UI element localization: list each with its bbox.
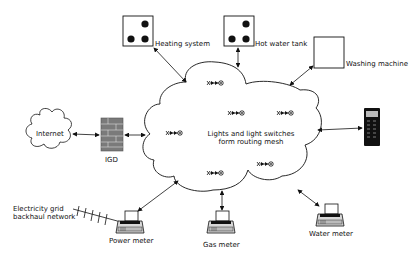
hot-water-tank-icon <box>224 16 254 46</box>
label-heating-system: Heating system <box>155 40 210 48</box>
label-grid-line1: Electricity grid <box>13 205 75 213</box>
label-internet: Internet <box>36 130 64 138</box>
washing-machine-icon <box>314 37 344 68</box>
label-water-meter: Water meter <box>309 230 353 238</box>
internet-cloud-icon <box>26 108 71 148</box>
link-internet-igd <box>73 134 99 135</box>
link-power <box>138 181 178 211</box>
mobile-phone-icon <box>364 108 380 146</box>
link-heating <box>154 48 186 82</box>
label-mesh: Lights and light switches form routing m… <box>196 130 306 146</box>
label-hot-water-tank: Hot water tank <box>255 40 307 48</box>
label-mesh-line2: form routing mesh <box>196 138 306 146</box>
antenna-icon <box>73 206 121 225</box>
igd-firewall-icon <box>101 118 123 151</box>
gas-meter-icon <box>207 211 235 233</box>
link-water <box>298 190 319 206</box>
label-gas-meter: Gas meter <box>203 241 240 249</box>
water-meter-icon <box>316 204 344 226</box>
link-washing <box>290 66 313 85</box>
label-washing-machine: Washing machine <box>346 60 408 68</box>
power-meter-icon <box>116 211 144 233</box>
label-power-meter: Power meter <box>109 237 153 245</box>
label-mesh-line1: Lights and light switches <box>196 130 306 138</box>
link-phone <box>318 128 362 130</box>
label-grid: Electricity grid backhaul network <box>13 205 75 221</box>
label-igd: IGD <box>105 156 118 164</box>
heating-system-icon <box>123 16 153 46</box>
label-grid-line2: backhaul network <box>13 213 75 221</box>
